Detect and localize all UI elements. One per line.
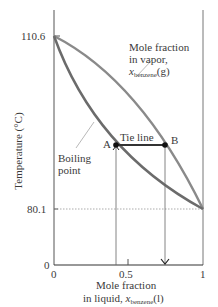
y-tick-label-0: 0 — [44, 259, 50, 271]
point-b-label: B — [171, 134, 178, 146]
point-b — [162, 142, 168, 148]
x-tick-label-1: 1 — [200, 268, 206, 280]
vapor-suffix: (g) — [157, 65, 170, 77]
y-axis-title: Temperature (°C) — [12, 101, 24, 201]
tie-line-label: Tie line — [120, 131, 154, 143]
x-tick-label-0: 0 — [51, 268, 57, 280]
y-tick-label-110-6: 110.6 — [21, 30, 45, 42]
point-a — [113, 142, 119, 148]
x-axis-title-prefix: in liquid, — [83, 292, 125, 304]
point-a-label: A — [103, 138, 111, 150]
vapor-sub: benzene — [134, 71, 157, 79]
boiling-label-line2: point — [58, 164, 81, 176]
boiling-leader-line — [76, 122, 94, 148]
y-tick-label-80-1: 80.1 — [27, 203, 46, 215]
x-axis-title-sub: benzene — [130, 298, 153, 306]
x-axis-title-suffix: (l) — [153, 292, 163, 304]
vapor-label-line2: in vapor, — [129, 53, 168, 65]
vapor-label-line3: xbenzene(g) — [129, 65, 170, 81]
x-axis-title-line2: in liquid, xbenzene(l) — [83, 292, 164, 307]
boiling-label-line1: Boiling — [58, 152, 91, 164]
vapor-label-line1: Mole fraction — [129, 41, 189, 53]
x-axis-title-line1: Mole fraction — [96, 279, 156, 291]
